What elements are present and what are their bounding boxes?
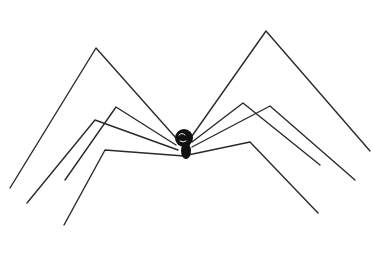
right-leg-3	[192, 106, 355, 180]
right-leg-4	[188, 142, 318, 213]
left-leg-4	[64, 150, 184, 225]
spider-body	[175, 129, 193, 159]
left-leg-1	[10, 48, 176, 188]
right-leg-2	[192, 103, 320, 165]
left-legs	[10, 48, 184, 225]
spider-abdomen	[181, 143, 191, 159]
right-legs	[188, 31, 370, 213]
spider-drawing	[0, 0, 371, 265]
drawing-canvas: spider drawing	[0, 0, 371, 265]
